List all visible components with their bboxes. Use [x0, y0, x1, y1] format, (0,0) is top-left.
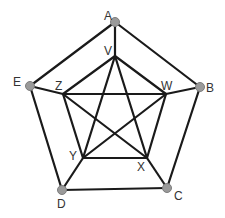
- vertex-a-label: A: [104, 9, 112, 23]
- edge-v-y: [83, 56, 115, 158]
- edge-c-x: [147, 158, 167, 188]
- pentagon-graph-diagram: ABCDEVWXYZ: [0, 0, 225, 218]
- edge-v-x: [115, 56, 147, 158]
- edge-a-b: [115, 22, 200, 87]
- edge-w-y: [83, 94, 166, 158]
- vertex-y-label: Y: [69, 149, 77, 163]
- vertex-c-label: C: [174, 189, 183, 203]
- vertex-d-label: D: [57, 197, 66, 211]
- vertex-x-label: X: [137, 160, 145, 174]
- edge-e-a: [30, 22, 115, 86]
- edge-w-x: [147, 94, 166, 158]
- edge-b-c: [167, 87, 200, 188]
- vertex-v-label: V: [104, 44, 112, 58]
- vertex-d-dot: [58, 186, 67, 195]
- labels-group: ABCDEVWXYZ: [13, 9, 214, 211]
- vertex-b-label: B: [206, 81, 214, 95]
- vertex-c-dot: [163, 184, 172, 193]
- edge-c-d: [62, 188, 167, 190]
- vertex-e-label: E: [13, 75, 21, 89]
- vertex-z-label: Z: [55, 79, 62, 93]
- vertex-b-dot: [196, 83, 205, 92]
- vertex-e-dot: [26, 82, 35, 91]
- edges-group: [30, 22, 200, 190]
- edge-d-e: [30, 86, 62, 190]
- edge-z-v: [63, 56, 115, 94]
- edge-v-w: [115, 56, 166, 94]
- vertex-w-label: W: [161, 79, 173, 93]
